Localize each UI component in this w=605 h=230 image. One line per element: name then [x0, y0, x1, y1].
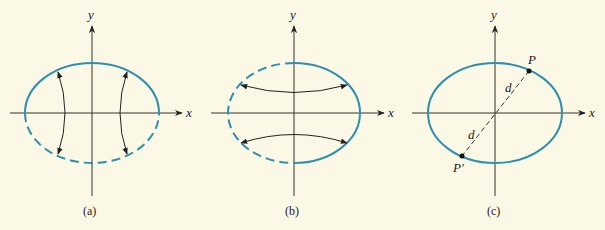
panel-b: x y (b) [211, 7, 394, 218]
caption-a: (a) [83, 204, 96, 218]
distance-label-upper: d [505, 80, 512, 95]
point-p-prime-label: P′ [452, 160, 464, 175]
distance-label-lower: d [468, 127, 475, 142]
x-axis-label: x [588, 105, 595, 120]
panel-c: x y P P′ d d (c) [412, 7, 595, 218]
caption-c: (c) [487, 204, 500, 218]
caption-b: (b) [285, 204, 299, 218]
panel-a: x y (a) [10, 7, 192, 218]
point-p-label: P [527, 52, 536, 67]
symmetry-figure: x y (a) x y (b) x y P P′ d d (c) [0, 0, 605, 230]
y-axis-label: y [86, 7, 94, 22]
x-axis-label: x [185, 105, 192, 120]
x-axis-label: x [387, 105, 394, 120]
point-p [527, 69, 532, 74]
y-axis-label: y [489, 7, 497, 22]
y-axis-label: y [288, 7, 296, 22]
point-p-prime [460, 154, 465, 159]
